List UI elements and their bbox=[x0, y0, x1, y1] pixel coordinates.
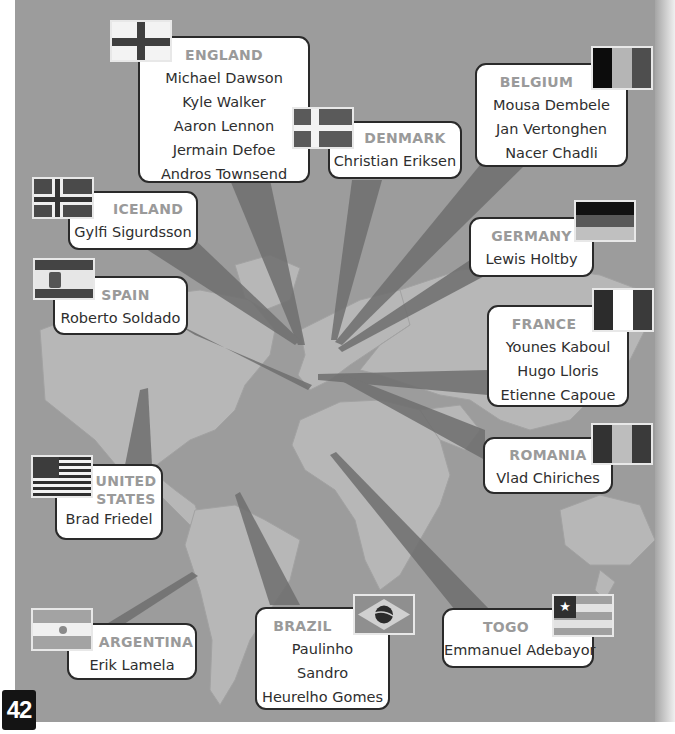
player-name: Michael Dawson bbox=[140, 66, 308, 90]
denmark-flag-icon bbox=[292, 107, 354, 149]
player-name: Lewis Holtby bbox=[471, 247, 592, 271]
belgium-flag-icon bbox=[591, 46, 653, 90]
player-name: Emmanuel Adebayor bbox=[444, 638, 592, 662]
france-flag-icon bbox=[592, 288, 654, 332]
player-name: Sandro bbox=[257, 661, 388, 685]
country-label: ICELAND bbox=[100, 198, 196, 220]
country-label: STATES bbox=[91, 490, 161, 508]
country-label: BELGIUM bbox=[477, 71, 596, 93]
romania-flag-icon bbox=[591, 423, 653, 465]
spain-flag-icon bbox=[33, 258, 95, 300]
player-name: Younes Kaboul bbox=[489, 335, 627, 359]
star-icon: ★ bbox=[554, 596, 576, 618]
country-label: DENMARK bbox=[350, 127, 460, 149]
player-name: Christian Eriksen bbox=[330, 149, 460, 173]
page-number: 42 bbox=[2, 690, 36, 730]
usa-flag-icon bbox=[31, 455, 93, 498]
togo-flag-icon: ★ bbox=[552, 594, 614, 637]
player-name: Andros Townsend bbox=[140, 162, 308, 186]
player-name: Gylfi Sigurdsson bbox=[70, 220, 196, 244]
player-name: Paulinho bbox=[257, 637, 388, 661]
player-name: Etienne Capoue bbox=[489, 383, 627, 407]
player-name: Nacer Chadli bbox=[477, 141, 626, 165]
argentina-flag-icon bbox=[31, 608, 93, 651]
player-name: Jan Vertonghen bbox=[477, 117, 626, 141]
germany-flag-icon bbox=[574, 200, 636, 242]
country-label: FRANCE bbox=[489, 313, 599, 335]
player-name: Hugo Lloris bbox=[489, 359, 627, 383]
player-name: Roberto Soldado bbox=[55, 306, 186, 330]
country-label: TOGO bbox=[444, 616, 568, 638]
player-name: Aaron Lennon bbox=[140, 114, 308, 138]
player-name: Vlad Chiriches bbox=[485, 466, 611, 490]
iceland-flag-icon bbox=[32, 177, 94, 219]
player-name: Mousa Dembele bbox=[477, 93, 626, 117]
player-name: Jermain Defoe bbox=[140, 138, 308, 162]
england-flag-icon bbox=[110, 20, 172, 62]
country-label: BRAZIL bbox=[257, 615, 348, 637]
player-name: Erik Lamela bbox=[69, 653, 195, 677]
player-name: Heurelho Gomes bbox=[257, 685, 388, 709]
country-label: UNITED bbox=[91, 472, 161, 490]
player-name: Brad Friedel bbox=[57, 508, 161, 530]
player-name: Kyle Walker bbox=[140, 90, 308, 114]
brazil-flag-icon bbox=[353, 594, 415, 635]
